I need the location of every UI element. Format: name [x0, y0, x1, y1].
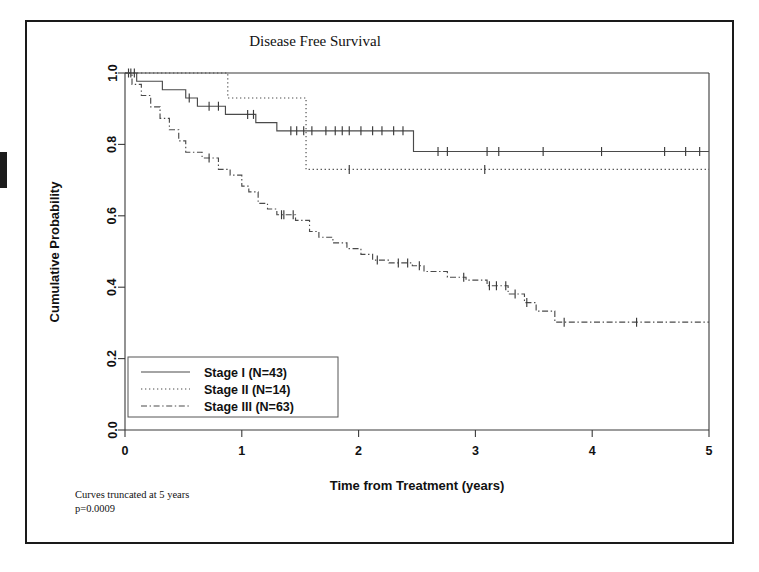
y-tick-label: 0.4 [106, 278, 120, 295]
y-axis: 0.00.20.40.60.81.0 [105, 64, 125, 438]
survival-figure: Disease Free Survival 0.00.20.40.60.81.0… [0, 0, 759, 572]
legend-label-2[interactable]: Stage II (N=14) [204, 383, 291, 397]
footnote-pvalue: p=0.0009 [75, 503, 115, 514]
x-axis-title: Time from Treatment (years) [330, 478, 505, 493]
footnote-truncation: Curves truncated at 5 years [75, 489, 189, 500]
chart-title: Disease Free Survival [249, 33, 381, 49]
y-tick-label: 0.0 [106, 421, 120, 438]
survival-curve-2 [125, 73, 709, 169]
x-tick-label: 4 [589, 444, 596, 458]
survival-curve-3 [125, 73, 709, 322]
x-tick-label: 1 [238, 444, 245, 458]
x-axis: 012345 [122, 430, 713, 458]
scan-edge-artifact [0, 152, 7, 188]
y-tick-label: 1.0 [106, 64, 120, 81]
legend-label-1[interactable]: Stage I (N=43) [204, 366, 287, 380]
y-tick-label: 0.8 [105, 136, 119, 153]
y-tick-label: 0.2 [106, 350, 120, 367]
kaplan-meier-chart: Disease Free Survival 0.00.20.40.60.81.0… [25, 20, 734, 544]
x-tick-label: 5 [706, 444, 713, 458]
x-tick-label: 3 [472, 444, 479, 458]
chart-legend[interactable]: Stage I (N=43)Stage II (N=14)Stage III (… [128, 357, 338, 417]
legend-label-3[interactable]: Stage III (N=63) [204, 400, 294, 414]
x-tick-label: 2 [355, 444, 362, 458]
survival-curves [125, 69, 709, 327]
y-tick-label: 0.6 [106, 207, 120, 224]
x-tick-label: 0 [122, 444, 129, 458]
survival-curve-1 [125, 73, 709, 152]
y-axis-title: Cumulative Probability [47, 181, 62, 323]
